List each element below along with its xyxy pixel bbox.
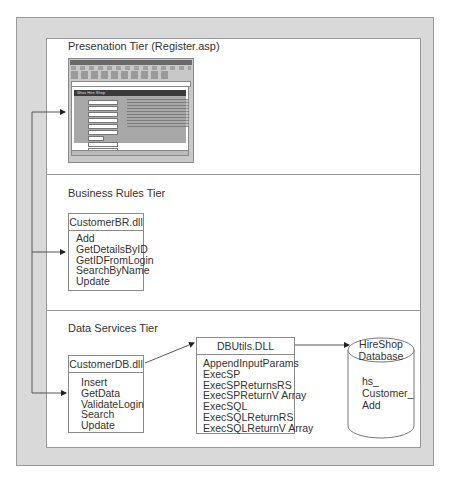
arrow-to-dbutils [145, 343, 194, 363]
connector-arrows [0, 0, 451, 482]
